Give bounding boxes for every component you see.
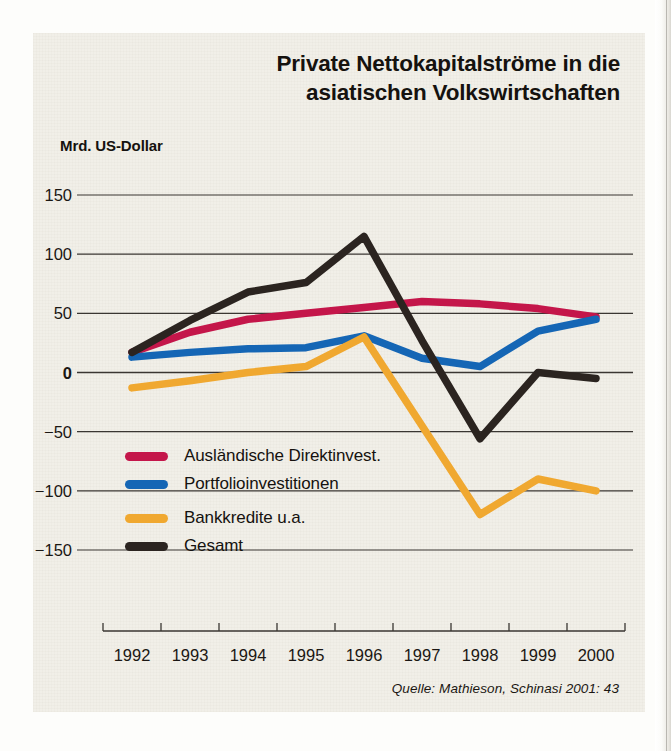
x-axis-tick-label: 1997 (393, 646, 451, 665)
legend-swatch-icon (125, 514, 168, 523)
legend-label: Bankkredite u.a. (184, 508, 305, 528)
x-axis-tick-label: 1992 (103, 646, 161, 665)
legend-label: Ausländische Direktinvest. (184, 446, 381, 466)
legend-item: Gesamt (125, 536, 243, 556)
page-edge-shadow (655, 0, 671, 751)
legend-item: Ausländische Direktinvest. (125, 446, 381, 466)
x-axis-tick-label: 1995 (277, 646, 335, 665)
legend-swatch-icon (125, 452, 168, 461)
y-axis-tick-label: −150 (20, 541, 72, 560)
legend-item: Portfolioinvestitionen (125, 474, 339, 494)
legend-item: Bankkredite u.a. (125, 508, 305, 528)
y-axis-tick-label: 0 (20, 363, 72, 382)
plot-area (0, 0, 671, 751)
x-axis-tick-label: 1998 (451, 646, 509, 665)
x-axis-tick-label: 1999 (509, 646, 567, 665)
figure-page: Private Nettokapitalströme in die asiati… (0, 0, 671, 751)
y-axis-tick-label: 150 (20, 186, 72, 205)
y-axis-tick-label: 50 (20, 304, 72, 323)
source-note: Quelle: Mathieson, Schinasi 2001: 43 (392, 681, 619, 696)
y-axis-tick-label: 100 (20, 245, 72, 264)
x-axis-tick-label: 2000 (567, 646, 625, 665)
y-axis-tick-label: −100 (20, 481, 72, 500)
legend-label: Gesamt (184, 536, 243, 556)
x-axis-tick-label: 1994 (219, 646, 277, 665)
x-axis-tick-label: 1993 (161, 646, 219, 665)
page-edge-line (666, 0, 667, 751)
legend-swatch-icon (125, 480, 168, 489)
series-line (132, 302, 596, 353)
y-axis-tick-label: −50 (20, 422, 72, 441)
x-axis-tick-label: 1996 (335, 646, 393, 665)
legend-label: Portfolioinvestitionen (184, 474, 339, 494)
legend-swatch-icon (125, 542, 168, 551)
